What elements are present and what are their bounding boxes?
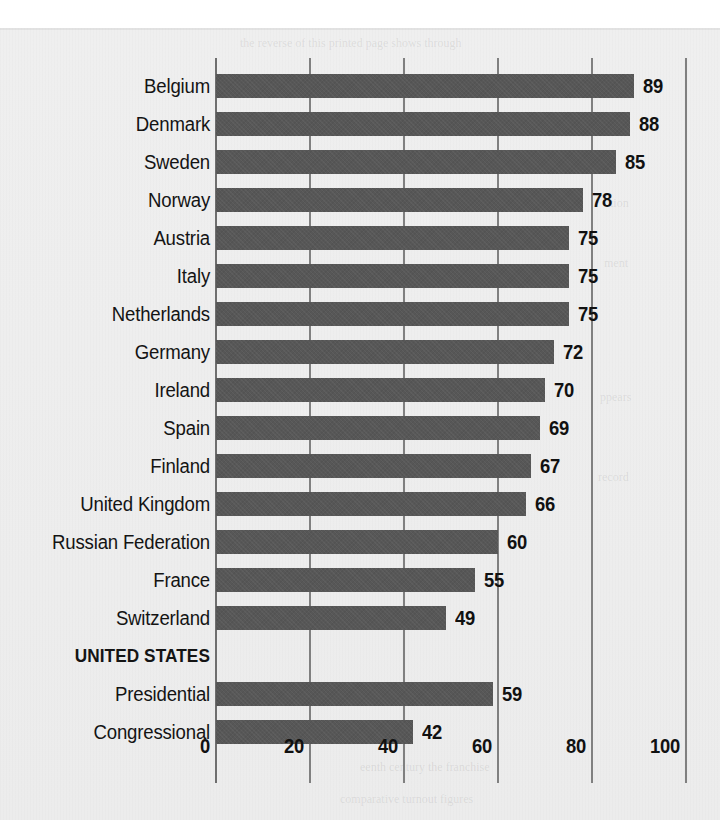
bar-value-label: 66: [535, 492, 555, 516]
chart-row[interactable]: Austria75: [0, 226, 720, 250]
chart-row[interactable]: Russian Federation60: [0, 530, 720, 554]
bar[interactable]: [216, 226, 569, 250]
category-label: Denmark: [15, 113, 210, 135]
chart-row[interactable]: Finland67: [0, 454, 720, 478]
bar[interactable]: [216, 568, 475, 592]
bar-value-label: 55: [484, 568, 504, 592]
bar-value-label: 69: [549, 416, 569, 440]
bar[interactable]: [216, 416, 540, 440]
bar-value-label: 72: [563, 340, 583, 364]
category-label: Belgium: [15, 75, 210, 97]
chart-row[interactable]: Sweden85: [0, 150, 720, 174]
bar[interactable]: [216, 188, 583, 212]
category-label: Italy: [15, 265, 210, 287]
bar-value-label: 49: [455, 606, 475, 630]
chart-row[interactable]: Switzerland49: [0, 606, 720, 630]
bar[interactable]: [216, 454, 531, 478]
bar[interactable]: [216, 74, 634, 98]
chart-row[interactable]: Presidential59: [0, 682, 720, 706]
chart-row[interactable]: United Kingdom66: [0, 492, 720, 516]
category-label: Norway: [15, 189, 210, 211]
category-label: Germany: [15, 341, 210, 363]
chart-row[interactable]: Norway78: [0, 188, 720, 212]
chart-row[interactable]: Belgium89: [0, 74, 720, 98]
bar-chart: Belgium89Denmark88Sweden85Norway78Austri…: [0, 0, 720, 820]
bar[interactable]: [216, 378, 545, 402]
bar[interactable]: [216, 302, 569, 326]
bar-value-label: 78: [592, 188, 612, 212]
category-label: Spain: [15, 417, 210, 439]
bar[interactable]: [216, 492, 526, 516]
x-axis-tick-40: 40: [321, 735, 398, 757]
category-label: Sweden: [15, 151, 210, 173]
x-axis-tick-60: 60: [415, 735, 492, 757]
bar-value-label: 60: [507, 530, 527, 554]
chart-row[interactable]: Germany72: [0, 340, 720, 364]
bar-value-label: 75: [578, 226, 598, 250]
chart-row[interactable]: Denmark88: [0, 112, 720, 136]
chart-row[interactable]: Spain69: [0, 416, 720, 440]
category-label: United Kingdom: [15, 493, 210, 515]
category-label: Finland: [15, 455, 210, 477]
group-header-label: UNITED STATES: [15, 645, 210, 667]
bar-value-label: 67: [540, 454, 560, 478]
x-axis-tick-100: 100: [603, 735, 680, 757]
bar[interactable]: [216, 682, 493, 706]
category-label: Netherlands: [15, 303, 210, 325]
bar-value-label: 70: [554, 378, 574, 402]
bar[interactable]: [216, 150, 616, 174]
bar-value-label: 75: [578, 264, 598, 288]
category-label: Russian Federation: [15, 531, 210, 553]
chart-row[interactable]: Netherlands75: [0, 302, 720, 326]
chart-row[interactable]: Ireland70: [0, 378, 720, 402]
chart-row[interactable]: UNITED STATES: [0, 644, 720, 668]
x-axis-tick-0: 0: [133, 735, 210, 757]
bar-value-label: 85: [625, 150, 645, 174]
category-label: Switzerland: [15, 607, 210, 629]
bar[interactable]: [216, 530, 498, 554]
category-label: Presidential: [15, 683, 210, 705]
x-axis-tick-20: 20: [227, 735, 304, 757]
x-axis-tick-80: 80: [509, 735, 586, 757]
bar[interactable]: [216, 264, 569, 288]
scanned-page: the reverse of this printed page shows t…: [0, 0, 720, 820]
bar-value-label: 59: [502, 682, 522, 706]
chart-row[interactable]: France55: [0, 568, 720, 592]
chart-row[interactable]: Italy75: [0, 264, 720, 288]
bar-value-label: 75: [578, 302, 598, 326]
bar[interactable]: [216, 340, 554, 364]
bar-value-label: 89: [643, 74, 663, 98]
bar-value-label: 88: [639, 112, 659, 136]
category-label: Ireland: [15, 379, 210, 401]
category-label: France: [15, 569, 210, 591]
bar[interactable]: [216, 606, 446, 630]
bar[interactable]: [216, 112, 630, 136]
category-label: Austria: [15, 227, 210, 249]
